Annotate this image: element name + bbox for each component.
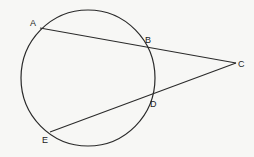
point-label-c: C [238,59,245,69]
diagram-svg: A B C D E [0,0,254,157]
point-label-e: E [42,135,48,145]
point-label-d: D [150,99,157,109]
circle [21,10,155,146]
point-label-a: A [30,18,36,28]
point-label-b: B [145,35,151,45]
secant-ec [50,63,236,132]
geometry-diagram: A B C D E [0,0,254,157]
